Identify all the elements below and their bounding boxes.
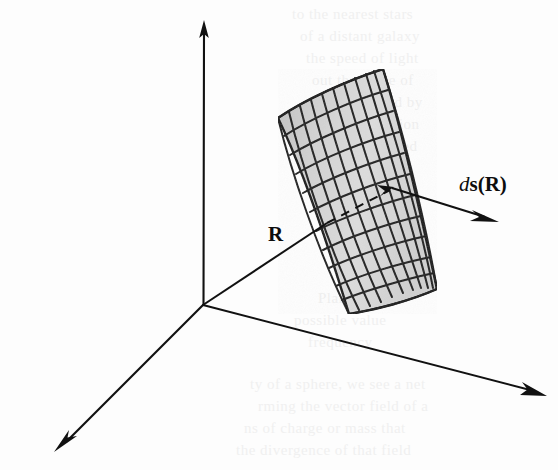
right-axis — [203, 305, 547, 396]
coordinate-axes — [54, 20, 547, 452]
label-surface-element-ds: ds(R) — [459, 172, 507, 197]
label-ds-paren-open: ( — [478, 172, 485, 196]
position-vector-R-line — [203, 223, 327, 305]
ds-vector-arrowhead — [470, 210, 499, 222]
label-ds-R: R — [485, 172, 500, 196]
label-ds-paren-close: ) — [500, 172, 507, 196]
curved-surface-patch — [278, 69, 437, 314]
left-axis — [54, 305, 203, 452]
surface-element-figure: to the nearest starsof a distant galaxyt… — [0, 0, 558, 470]
vertical-axis — [199, 20, 209, 305]
label-position-vector-R: R — [268, 222, 283, 247]
label-ds-s: s — [470, 172, 478, 196]
label-ds-d: d — [459, 172, 470, 196]
